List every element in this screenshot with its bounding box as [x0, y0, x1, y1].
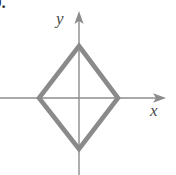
- x-axis-label: x: [150, 102, 158, 119]
- figure-container: 9. y x: [0, 0, 176, 175]
- coordinate-plane-graphic: [0, 0, 176, 175]
- y-axis-label: y: [56, 10, 64, 27]
- axes-group: [0, 11, 166, 175]
